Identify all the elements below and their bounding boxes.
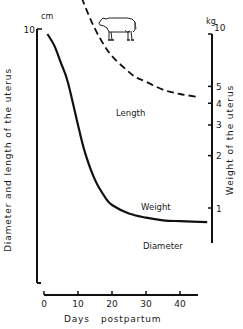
right-y-axis: 1234510 kg [206, 17, 226, 243]
diameter-curve [51, 0, 197, 97]
right-tick-label: 10 [214, 23, 226, 33]
weight-label: Weight [141, 202, 171, 212]
x-tick-label: 10 [72, 299, 84, 309]
left-axis-unit: cm [41, 12, 53, 21]
x-tick-label: 40 [174, 299, 186, 309]
x-axis-label-days: Days [64, 314, 90, 324]
right-tick-label: 1 [216, 204, 222, 214]
cow-icon [99, 18, 136, 40]
x-axis: 010203040 Days postpartum [41, 291, 198, 324]
x-tick-label: 30 [140, 299, 152, 309]
left-y-axis: 1020406080100 cm [18, 0, 54, 283]
weight-curve [47, 34, 207, 222]
right-axis-title: Weight of the uterus [225, 85, 235, 195]
right-tick-label: 2 [216, 151, 222, 161]
uterus-involution-chart: 1020406080100 cm 1234510 kg 010203040 Da… [0, 0, 243, 329]
right-tick-label: 4 [216, 99, 222, 109]
right-tick-label: 3 [216, 120, 222, 130]
x-tick-label: 0 [41, 299, 47, 309]
right-tick-label: 5 [216, 82, 222, 92]
right-axis-unit: kg [206, 17, 216, 26]
left-axis-title: Diameter and length of the uterus [3, 68, 13, 252]
left-tick-label: 10 [24, 25, 36, 35]
diameter-label: Diameter [143, 241, 183, 251]
x-tick-label: 20 [106, 299, 118, 309]
x-axis-label-postpartum: postpartum [101, 314, 161, 324]
length-label: Length [116, 108, 145, 118]
